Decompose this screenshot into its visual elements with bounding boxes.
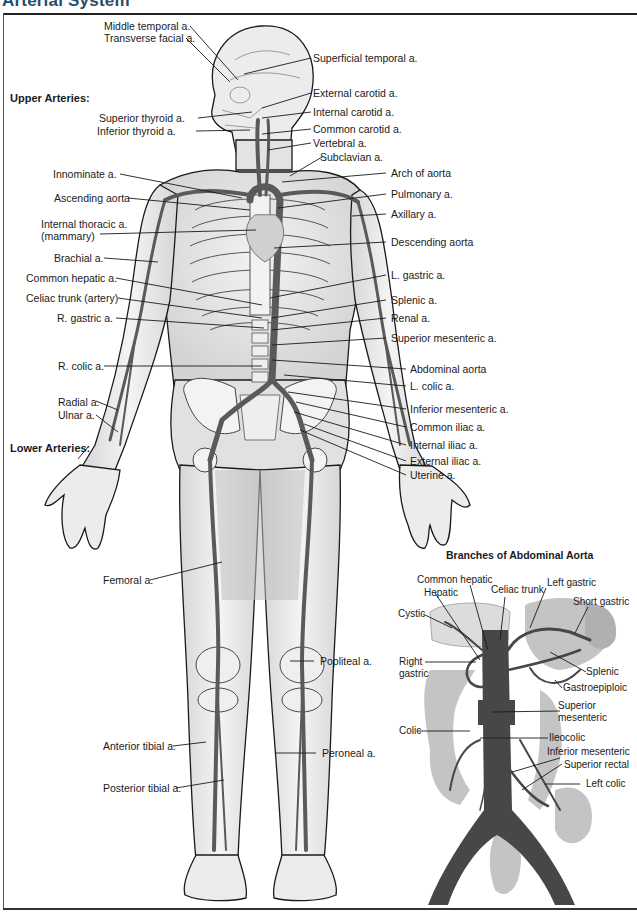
inset-label-colic: Colic [399, 725, 421, 736]
inset-label-splenic: Splenic [586, 666, 619, 677]
label-transverse-facial: Transverse facial a. [104, 32, 195, 44]
label-superficial-temporal: Superficial temporal a. [313, 52, 417, 64]
inset-label-left-gastric: Left gastric [547, 577, 596, 588]
label-abdominal-aorta: Abdominal aorta [410, 363, 486, 375]
label-pulmonary: Pulmonary a. [391, 188, 453, 200]
label-ulnar: Ulnar a. [58, 409, 95, 421]
label-ascending-aorta: Ascending aorta [54, 192, 130, 204]
inset-title: Branches of Abdominal Aorta [446, 549, 593, 561]
label-internal-thoracic-mammary: (mammary) [41, 230, 95, 242]
label-brachial: Brachial a. [54, 252, 104, 264]
label-l-colic: L. colic a. [410, 380, 454, 392]
inset-label-superior-rectal: Superior rectal [564, 759, 629, 770]
label-superior-mesenteric: Superior mesenteric a. [391, 332, 497, 344]
section-upper-arteries: Upper Arteries: [10, 92, 90, 104]
label-innominate: Innominate a. [53, 168, 117, 180]
inset-label-superior-mesenteric-2: mesenteric [558, 712, 607, 723]
label-celiac-trunk: Celiac trunk (artery) [26, 292, 118, 304]
label-superior-thyroid: Superior thyroid a. [99, 112, 185, 124]
label-inferior-mesenteric: Inferior mesenteric a. [410, 403, 509, 415]
label-uterine: Uterine a. [410, 469, 456, 481]
label-posterior-tibial: Posterior tibial a. [103, 782, 181, 794]
label-internal-iliac: Internal iliac a. [410, 439, 478, 451]
label-external-iliac: External iliac a. [410, 455, 481, 467]
inset-label-superior-mesenteric: Superior [558, 700, 596, 711]
label-internal-thoracic: Internal thoracic a. [41, 218, 127, 230]
label-vertebral: Vertebral a. [313, 137, 367, 149]
label-axillary: Axillary a. [391, 208, 437, 220]
label-r-colic: R. colic a. [58, 360, 104, 372]
label-radial: Radial a. [58, 396, 99, 408]
label-arch-of-aorta: Arch of aorta [391, 167, 451, 179]
label-common-iliac: Common iliac a. [410, 421, 485, 433]
label-middle-temporal: Middle temporal a. [104, 20, 190, 32]
inset-label-short-gastric: Short gastric [573, 596, 629, 607]
inset-label-gastroepiploic: Gastroepiploic [563, 682, 627, 693]
label-popliteal: Popliteal a. [320, 655, 372, 667]
label-renal: Renal a. [391, 312, 430, 324]
inset-label-common-hepatic: Common hepatic [417, 574, 493, 585]
inset-label-inferior-mesenteric: Inferior mesenteric [547, 746, 630, 757]
label-splenic: Splenic a. [391, 294, 437, 306]
inset-label-right-gastric: Right [399, 656, 422, 667]
inset-label-right-gastric-2: gastric [399, 668, 428, 679]
inset-abdominal-aorta-diagram [417, 585, 616, 905]
label-external-carotid: External carotid a. [313, 87, 398, 99]
inset-label-cystic: Cystic [398, 608, 425, 619]
thigh-shading [215, 470, 305, 600]
label-common-carotid: Common carotid a. [313, 123, 402, 135]
label-inferior-thyroid: Inferior thyroid a. [97, 125, 176, 137]
inset-label-ileocolic: Ileocolic [549, 732, 585, 743]
label-anterior-tibial: Anterior tibial a. [103, 740, 176, 752]
label-r-gastric: R. gastric a. [57, 312, 113, 324]
label-subclavian: Subclavian a. [320, 151, 383, 163]
label-peroneal: Peroneal a. [322, 747, 376, 759]
inset-label-left-colic: Left colic [586, 778, 625, 789]
inset-label-hepatic: Hepatic [424, 587, 458, 598]
inset-label-celiac-trunk: Celiac trunk [491, 584, 544, 595]
label-internal-carotid: Internal carotid a. [313, 106, 394, 118]
section-lower-arteries: Lower Arteries: [10, 442, 90, 454]
label-l-gastric: L. gastric a. [391, 269, 445, 281]
label-descending-aorta: Descending aorta [391, 236, 473, 248]
label-femoral: Femoral a. [103, 574, 153, 586]
label-common-hepatic: Common hepatic a. [26, 272, 117, 284]
